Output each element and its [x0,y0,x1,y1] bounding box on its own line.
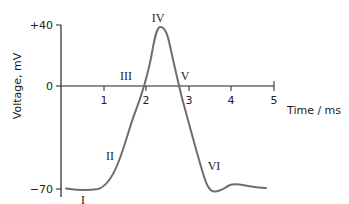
action-potential-curve [66,27,266,192]
y-tick-label-40: +40 [30,19,53,32]
phase-label-1-visible: I [81,193,85,204]
x-tick-label-3: 3 [186,94,193,107]
action-potential-chart: +40 0 −70 1 2 3 4 5 Time / ms Voltage, m… [0,0,349,204]
x-axis-title: Time / ms [286,104,341,117]
y-tick-label-minus70: −70 [30,183,53,196]
y-tick-label-0: 0 [46,80,53,93]
y-axis-title: Voltage, mV [11,52,24,119]
x-tick-label-4: 4 [228,94,235,107]
phase-label-2: II [106,149,114,163]
x-tick-label-1: 1 [101,94,108,107]
phase-label-5: V [181,69,190,83]
x-tick-label-2: 2 [143,94,150,107]
phase-label-3: III [120,69,132,83]
phase-label-6: VI [208,159,221,173]
phase-label-4: IV [152,11,165,25]
x-tick-label-5: 5 [271,94,278,107]
